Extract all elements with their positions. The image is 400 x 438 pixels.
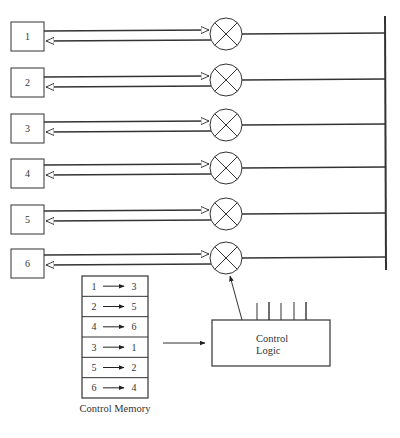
bus-tap-line — [242, 167, 385, 168]
circle-x-icon — [210, 18, 242, 50]
entry-from: 6 — [92, 382, 97, 393]
control-logic-label-line2: Logic — [256, 345, 281, 356]
port-row: 1 — [11, 18, 385, 51]
receive-line — [46, 264, 211, 265]
entry-from: 1 — [92, 281, 97, 292]
circle-x-icon — [210, 109, 242, 141]
port-row: 3 — [11, 109, 385, 143]
entry-to: 3 — [132, 281, 137, 292]
transmit-line — [44, 121, 209, 122]
entry-from: 3 — [92, 342, 97, 353]
port-row: 2 — [11, 64, 385, 97]
circle-x-icon — [210, 198, 242, 230]
bus-tap-line — [242, 33, 385, 34]
receive-line — [46, 40, 211, 41]
transmit-line — [44, 164, 209, 165]
entry-from: 5 — [92, 362, 97, 373]
tdm-bus-switch-diagram: 123456 132546315264 Control Memory Contr… — [0, 0, 400, 438]
transmit-line — [44, 30, 209, 31]
entry-from: 2 — [92, 301, 97, 312]
bus-tap-line — [242, 79, 385, 80]
port-label: 6 — [25, 258, 30, 269]
bus-tap-line — [242, 257, 385, 258]
port-label: 2 — [25, 77, 30, 88]
shared-bus — [385, 16, 386, 270]
receive-line — [46, 220, 211, 221]
entry-from: 4 — [92, 321, 97, 332]
control-memory: 132546315264 Control Memory — [80, 276, 152, 414]
transmit-line — [44, 210, 209, 211]
bus-tap-line — [242, 213, 385, 214]
entry-to: 4 — [132, 382, 137, 393]
entry-to: 6 — [132, 321, 137, 332]
port-label: 5 — [25, 214, 30, 225]
transmit-line — [44, 254, 209, 255]
circle-x-icon — [210, 64, 242, 96]
port-row: 4 — [11, 152, 385, 188]
control-logic: Control Logic — [212, 276, 330, 366]
bus-tap-line — [242, 124, 385, 125]
port-label: 1 — [25, 31, 30, 42]
transmit-line — [44, 76, 209, 77]
entry-to: 1 — [132, 342, 137, 353]
port-label: 3 — [25, 123, 30, 134]
control-logic-label-line1: Control — [256, 333, 288, 344]
port-label: 4 — [25, 168, 30, 179]
circle-x-icon — [210, 242, 242, 274]
port-row: 5 — [11, 198, 385, 234]
circle-x-icon — [210, 152, 242, 184]
entry-to: 2 — [132, 362, 137, 373]
logic-to-crosspoint-arrow — [230, 276, 242, 320]
receive-line — [46, 174, 211, 175]
entry-to: 5 — [132, 301, 137, 312]
receive-line — [46, 86, 211, 87]
port-row: 6 — [11, 242, 385, 278]
control-memory-title: Control Memory — [80, 403, 152, 414]
receive-line — [46, 131, 211, 132]
